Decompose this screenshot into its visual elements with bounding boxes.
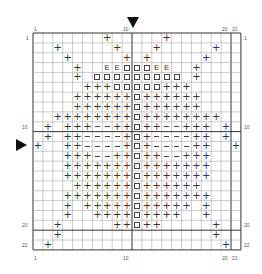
plus-symbol: + — [231, 141, 241, 151]
plus-symbol: + — [102, 210, 112, 220]
dash-symbol — [83, 132, 93, 142]
cross-stitch-chart: +++++++++++EEEE+++++++++++++++++++++++++… — [0, 0, 262, 274]
plus-symbol: + — [211, 43, 221, 53]
plus-symbol: + — [122, 53, 132, 63]
letter-e-symbol: E — [162, 63, 172, 73]
plus-symbol: + — [53, 112, 63, 122]
plus-symbol: + — [152, 43, 162, 53]
box-symbol — [132, 132, 142, 142]
dash-symbol — [172, 141, 182, 151]
letter-e-symbol: E — [112, 63, 122, 73]
plus-symbol: + — [53, 43, 63, 53]
plus-symbol: + — [102, 33, 112, 43]
box-symbol — [132, 92, 142, 102]
column-label-top: 21 — [232, 26, 238, 32]
plus-symbol: + — [83, 122, 93, 132]
dash-symbol — [162, 122, 172, 132]
plus-symbol: + — [92, 112, 102, 122]
row-label-right: 22 — [244, 242, 250, 248]
plus-symbol: + — [221, 132, 231, 142]
dash-symbol — [112, 132, 122, 142]
column-label-bottom: 21 — [232, 255, 238, 261]
box-symbol — [132, 63, 142, 73]
plus-symbol: + — [182, 201, 192, 211]
plus-symbol: + — [83, 201, 93, 211]
dash-symbol — [162, 141, 172, 151]
plus-symbol: + — [162, 33, 172, 43]
dash-symbol — [102, 141, 112, 151]
box-symbol — [132, 102, 142, 112]
box-symbol — [132, 171, 142, 181]
plus-symbol: + — [112, 43, 122, 53]
plus-symbol: + — [191, 191, 201, 201]
box-symbol — [132, 201, 142, 211]
plus-symbol: + — [201, 171, 211, 181]
column-label-top: 1 — [34, 26, 37, 32]
plus-symbol: + — [73, 72, 83, 82]
box-symbol — [142, 63, 152, 73]
dash-symbol — [92, 141, 102, 151]
plus-symbol: + — [53, 230, 63, 240]
plus-symbol: + — [63, 171, 73, 181]
letter-e-symbol: E — [152, 63, 162, 73]
dash-symbol — [152, 132, 162, 142]
row-label-left: 1 — [26, 35, 29, 41]
box-symbol — [132, 151, 142, 161]
row-label-right: 1 — [244, 35, 247, 41]
dash-symbol — [92, 122, 102, 132]
box-symbol — [132, 210, 142, 220]
box-symbol — [132, 191, 142, 201]
dash-symbol — [172, 132, 182, 142]
plus-symbol: + — [112, 220, 122, 230]
box-symbol — [132, 72, 142, 82]
plus-symbol: + — [112, 122, 122, 132]
box-symbol — [132, 122, 142, 132]
plus-symbol: + — [182, 122, 192, 132]
dash-symbol — [102, 122, 112, 132]
dash-symbol — [92, 132, 102, 142]
column-label-bottom: 1 — [34, 255, 37, 261]
box-symbol — [142, 72, 152, 82]
column-label-top: 20 — [222, 26, 228, 32]
box-symbol — [132, 141, 142, 151]
plus-symbol: + — [152, 220, 162, 230]
plus-symbol: + — [43, 240, 53, 250]
plus-symbol: + — [73, 191, 83, 201]
plus-symbol: + — [201, 210, 211, 220]
dash-symbol — [182, 132, 192, 142]
box-symbol — [132, 220, 142, 230]
row-label-right: 10 — [244, 124, 250, 130]
plus-symbol: + — [172, 112, 182, 122]
plus-symbol: + — [191, 72, 201, 82]
dash-symbol — [162, 132, 172, 142]
plus-symbol: + — [92, 210, 102, 220]
box-symbol — [122, 72, 132, 82]
column-label-bottom: 10 — [123, 255, 129, 261]
plus-symbol: + — [152, 122, 162, 132]
dash-symbol — [172, 122, 182, 132]
plus-symbol: + — [63, 53, 73, 63]
plus-symbol: + — [142, 53, 152, 63]
pattern-grid: +++++++++++EEEE+++++++++++++++++++++++++… — [33, 33, 241, 250]
plus-symbol: + — [43, 132, 53, 142]
plus-symbol: + — [33, 141, 43, 151]
plus-symbol: + — [172, 210, 182, 220]
box-symbol — [132, 181, 142, 191]
plus-symbol: + — [211, 112, 221, 122]
plus-symbol: + — [122, 220, 132, 230]
plus-symbol: + — [142, 220, 152, 230]
plus-symbol: + — [162, 210, 172, 220]
row-label-right: 20 — [244, 222, 250, 228]
box-symbol — [152, 72, 162, 82]
box-symbol — [122, 63, 132, 73]
column-label-bottom: 20 — [222, 255, 228, 261]
row-center-marker-icon — [16, 139, 27, 151]
plus-symbol: + — [102, 112, 112, 122]
box-symbol — [132, 161, 142, 171]
row-label-left: 20 — [22, 222, 28, 228]
box-symbol — [112, 72, 122, 82]
box-symbol — [132, 112, 142, 122]
column-center-marker-icon — [127, 17, 139, 28]
letter-e-symbol: E — [102, 63, 112, 73]
plus-symbol: + — [201, 53, 211, 63]
